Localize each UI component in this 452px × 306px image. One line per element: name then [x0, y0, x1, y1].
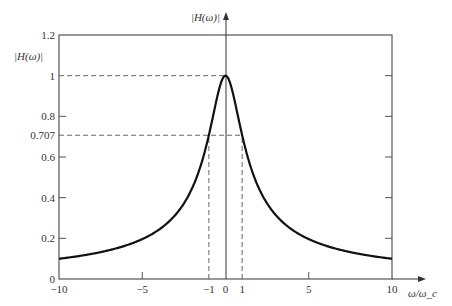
x-tick-label: 5 [306, 283, 312, 295]
x-tick-labels: −10−5−101510 [50, 283, 398, 295]
y-tick-labels: 00.20.40.60.7070.811.2 [30, 29, 55, 285]
y-tick-label: 0 [50, 273, 56, 285]
horizontal-axis-arrow-icon [418, 276, 426, 282]
y-tick-label: 0.4 [41, 192, 55, 204]
y-tick-label: 1.2 [41, 29, 55, 41]
y-axis-title: |H(ω)| [14, 50, 43, 63]
vertical-axis-arrow-icon [223, 12, 229, 20]
x-axis-title: ω/ω_c [408, 287, 437, 299]
y-tick-label: 0.707 [30, 129, 55, 141]
x-tick-label: −5 [136, 283, 148, 295]
y-tick-label: 0.6 [41, 151, 55, 163]
chart: −10−5−101510 00.20.40.60.7070.811.2 |H(ω… [0, 0, 452, 306]
x-tick-label: 10 [387, 283, 399, 295]
x-tick-label: 0 [223, 283, 229, 295]
y-tick-label: 1 [50, 70, 56, 82]
y-tick-label: 0.8 [41, 110, 55, 122]
y-tick-label: 0.2 [41, 232, 55, 244]
x-tick-label: −1 [203, 283, 215, 295]
top-axis-title: |H(ω)| [191, 11, 220, 24]
x-tick-label: 1 [239, 283, 245, 295]
